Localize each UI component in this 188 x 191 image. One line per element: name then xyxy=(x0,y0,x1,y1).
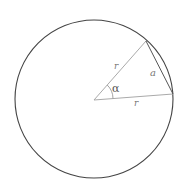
radius-upper-line xyxy=(94,41,146,100)
circle-chord-diagram: r r a α xyxy=(0,0,188,191)
circle-outline xyxy=(15,20,173,178)
radius-upper-label: r xyxy=(114,61,119,71)
chord-label: a xyxy=(150,67,156,78)
angle-alpha-label: α xyxy=(112,82,120,95)
radius-lower-label: r xyxy=(134,98,139,108)
